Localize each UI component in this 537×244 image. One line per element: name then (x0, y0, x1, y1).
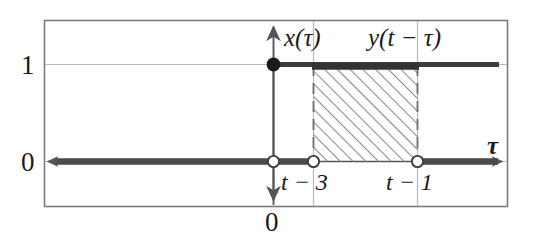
x-axis-label-tau: τ (487, 133, 498, 158)
signal-plot-figure: 1 0 0 t − 3 t − 1 x(τ) y(t − τ) τ (0, 0, 537, 244)
marker-filled-origin-unit (267, 58, 279, 70)
overlap-hatch-region (314, 65, 418, 162)
marker-open-origin-zero (268, 156, 279, 167)
y-axis-label-zero: 0 (21, 149, 35, 176)
x-tick-label-t-minus-3: t − 3 (281, 170, 328, 194)
signal-label-x-tau: x(τ) (284, 25, 321, 50)
y-axis-label-one: 1 (21, 52, 35, 79)
marker-open-t-minus-1 (412, 156, 423, 167)
marker-open-t-minus-3 (308, 156, 319, 167)
x-tick-label-t-minus-1: t − 1 (386, 170, 433, 194)
signal-label-y-t-minus-tau: y(t − τ) (368, 25, 441, 50)
origin-label-zero: 0 (265, 209, 279, 236)
